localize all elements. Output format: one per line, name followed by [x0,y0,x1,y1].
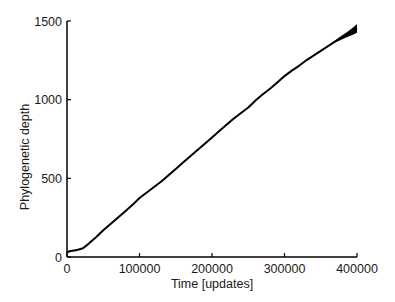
y-tick-label: 500 [41,172,62,186]
y-ticks: 050010001500 [34,15,71,265]
depth-series-line [67,29,357,252]
y-axis: 050010001500 [34,15,71,265]
x-tick-label: 400000 [336,262,378,276]
y-tick-label: 0 [55,251,62,265]
y-tick-label: 1500 [34,15,62,29]
line-chart: 050010001500 0100000200000300000400000 T… [0,0,395,302]
x-axis-label: Time [updates] [171,277,253,291]
y-axis-label: Phylogenetic depth [18,104,32,210]
x-tick-label: 200000 [191,262,233,276]
x-tick-label: 100000 [119,262,161,276]
x-tick-label: 0 [64,262,71,276]
x-axis: 0100000200000300000400000 [64,253,378,276]
x-tick-label: 300000 [264,262,306,276]
y-tick-label: 1000 [34,93,62,107]
